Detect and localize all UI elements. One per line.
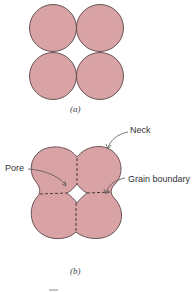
particle-bottom-right [77,53,124,100]
particle-top-left [30,5,77,52]
particle-bottom-left [30,53,77,100]
label-neck: Neck [130,126,151,135]
sintering-diagram [0,0,196,292]
caption-b: (b) [70,267,81,276]
label-grain-boundary: Grain boundary [128,175,190,184]
particle-top-right [77,5,124,52]
particles-before-sintering [30,5,124,100]
caption-a: (a) [70,105,81,114]
label-pore: Pore [5,164,24,173]
sintered-mass [31,146,121,238]
